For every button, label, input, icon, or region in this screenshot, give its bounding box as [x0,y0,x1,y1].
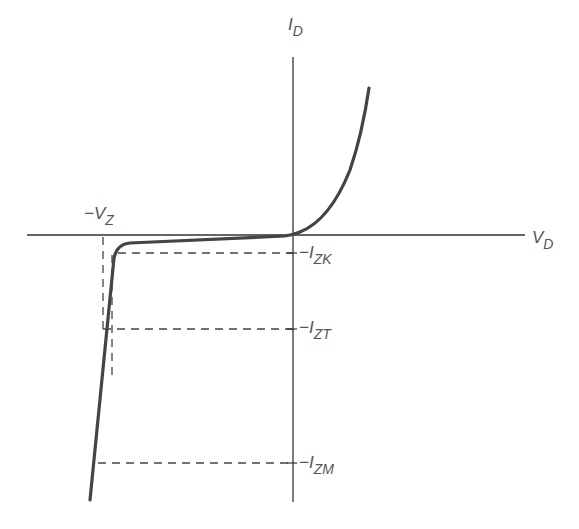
izk-label: −IZK [299,244,332,266]
zener-iv-diagram [0,0,579,529]
x-axis-label-sub: D [543,236,553,252]
y-axis-label-sub: D [293,23,303,39]
vz-label-main: V [94,204,105,223]
izt-label: −IZT [299,319,331,341]
izt-label-prefix: − [299,318,309,337]
izt-label-sub: ZT [314,326,331,342]
vz-label-prefix: − [84,204,94,223]
iv-curve [90,88,369,500]
y-axis-label: ID [288,16,303,38]
izk-label-sub: ZK [314,251,332,267]
vz-label-sub: Z [105,212,114,228]
izm-label-prefix: − [299,453,309,472]
x-axis-label: VD [532,229,553,251]
izm-label: −IZM [299,454,334,476]
vz-label: −VZ [84,205,114,227]
x-axis-label-main: V [532,228,543,247]
izm-label-sub: ZM [314,461,334,477]
izk-label-prefix: − [299,243,309,262]
